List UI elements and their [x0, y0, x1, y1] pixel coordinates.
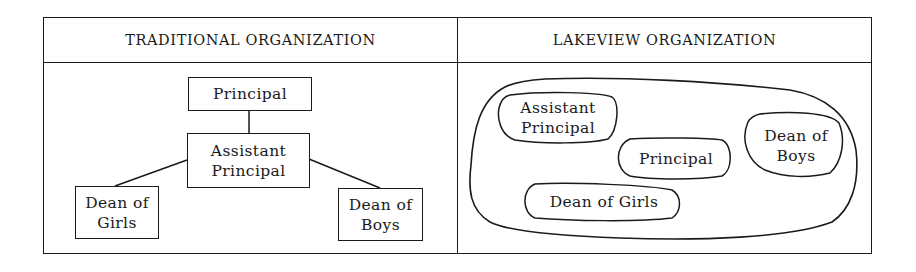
- lakeview-assistant-principal-label: Assistant Principal: [502, 95, 614, 141]
- lakeview-dean-of-boys-label: Dean of Boys: [748, 117, 844, 175]
- traditional-dean-of-girls-box: Dean of Girls: [75, 186, 159, 239]
- lakeview-principal-label: Principal: [620, 140, 732, 178]
- edge-assistant-dean-girls: [115, 160, 187, 186]
- traditional-principal-box: Principal: [188, 77, 312, 111]
- traditional-dean-of-boys-box: Dean of Boys: [338, 188, 423, 241]
- traditional-assistant-principal-box: Assistant Principal: [187, 133, 310, 188]
- edge-assistant-dean-boys: [309, 159, 380, 188]
- lakeview-dean-of-girls-label: Dean of Girls: [526, 186, 682, 218]
